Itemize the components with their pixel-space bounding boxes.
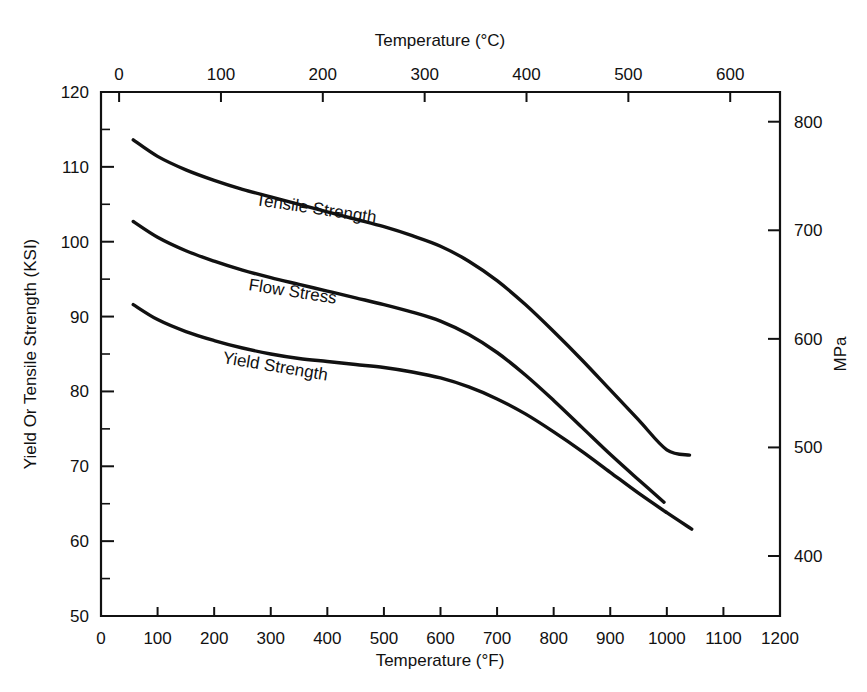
y-tick-label-70: 70 xyxy=(70,457,89,476)
y-tick-label-120: 120 xyxy=(61,83,89,102)
x-tick-label-500: 500 xyxy=(370,629,398,648)
curve-yield-strength xyxy=(133,305,691,530)
x-tick-label-200: 200 xyxy=(200,629,228,648)
y2-tick-label-400: 400 xyxy=(794,547,822,566)
curve-label-flow-stress: Flow Stress xyxy=(247,275,338,308)
axis-tick-labels: 0100200300400500600700800900100011001200… xyxy=(61,65,823,648)
x-tick-label-300: 300 xyxy=(257,629,285,648)
x2-tick-label-500: 500 xyxy=(614,65,642,84)
curve-tensile-strength xyxy=(133,140,689,455)
x2-tick-label-200: 200 xyxy=(309,65,337,84)
x-tick-label-1200: 1200 xyxy=(761,629,799,648)
axis-ticks xyxy=(101,92,780,616)
x2-tick-label-300: 300 xyxy=(410,65,438,84)
x2-tick-label-600: 600 xyxy=(716,65,744,84)
right-axis-title: MPa xyxy=(831,336,850,372)
x-tick-label-1100: 1100 xyxy=(705,629,742,648)
x2-tick-label-400: 400 xyxy=(512,65,540,84)
y2-tick-label-700: 700 xyxy=(794,221,822,240)
chart-figure: 0100200300400500600700800900100011001200… xyxy=(0,0,867,692)
y-tick-label-80: 80 xyxy=(70,382,89,401)
y2-tick-label-500: 500 xyxy=(794,438,822,457)
bottom-axis-title: Temperature (°F) xyxy=(376,651,505,670)
x-tick-label-0: 0 xyxy=(96,629,105,648)
data-curves xyxy=(133,140,691,529)
y-tick-label-100: 100 xyxy=(61,233,89,252)
y-tick-label-90: 90 xyxy=(70,308,89,327)
curve-label-tensile-strength: Tensile Strength xyxy=(254,190,377,227)
y-tick-label-50: 50 xyxy=(70,607,89,626)
x-tick-label-900: 900 xyxy=(596,629,624,648)
y2-tick-label-600: 600 xyxy=(794,330,822,349)
y-tick-label-110: 110 xyxy=(62,158,89,177)
x-tick-label-100: 100 xyxy=(143,629,171,648)
left-axis-title: Yield Or Tensile Strength (KSI) xyxy=(21,239,40,470)
x2-tick-label-0: 0 xyxy=(114,65,123,84)
plot-frame xyxy=(101,92,780,616)
x-tick-label-1000: 1000 xyxy=(648,629,686,648)
x2-tick-label-100: 100 xyxy=(207,65,235,84)
x-tick-label-400: 400 xyxy=(313,629,341,648)
y-tick-label-60: 60 xyxy=(70,532,89,551)
x-tick-label-600: 600 xyxy=(426,629,454,648)
strength-vs-temperature-chart: 0100200300400500600700800900100011001200… xyxy=(0,0,867,692)
x-tick-label-800: 800 xyxy=(539,629,567,648)
y2-tick-label-800: 800 xyxy=(794,113,822,132)
x-tick-label-700: 700 xyxy=(483,629,511,648)
top-axis-title: Temperature (°C) xyxy=(375,31,506,50)
